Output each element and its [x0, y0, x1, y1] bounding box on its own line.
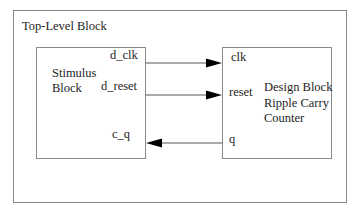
- connection-wires: [0, 0, 357, 212]
- arrowhead-right-icon: [206, 59, 222, 68]
- arrowhead-right-icon: [206, 91, 222, 100]
- wire-d-reset-to-reset: [146, 91, 222, 100]
- arrowhead-left-icon: [146, 139, 162, 148]
- wire-q-to-c-q: [146, 139, 222, 148]
- wire-d-clk-to-clk: [146, 59, 222, 68]
